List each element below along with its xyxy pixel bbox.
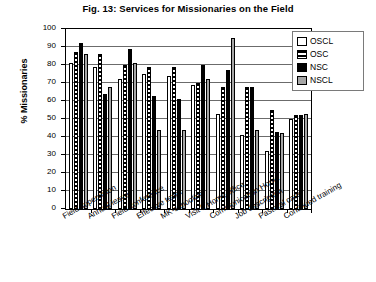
y-tick-label: 10: [26, 186, 56, 194]
bar: [191, 85, 195, 209]
legend-item[interactable]: OSCL: [297, 35, 360, 48]
legend-item[interactable]: NSC: [297, 61, 360, 74]
y-tick-label: 90: [26, 42, 56, 50]
bar: [304, 114, 308, 209]
bar: [206, 79, 210, 209]
bar: [172, 67, 176, 209]
y-tick-label: 50: [26, 114, 56, 122]
y-tick-label: 20: [26, 168, 56, 176]
y-tick-label: 60: [26, 96, 56, 104]
y-tick-label: 0: [26, 204, 56, 212]
bar: [128, 49, 132, 209]
legend-item[interactable]: OSC: [297, 48, 360, 61]
bar: [74, 52, 78, 209]
bar: [79, 43, 83, 209]
bar-group: [91, 29, 116, 209]
bar-group: [213, 29, 238, 209]
legend-swatch-icon: [297, 50, 307, 59]
bar: [69, 63, 73, 209]
bar: [118, 79, 122, 209]
bar-group: [115, 29, 140, 209]
chart-legend: OSCLOSCNSCNSCL: [292, 31, 364, 91]
legend-label: OSC: [310, 50, 328, 59]
legend-swatch-icon: [297, 63, 307, 72]
legend-label: NSCL: [310, 76, 333, 85]
bar-group: [66, 29, 91, 209]
bar: [167, 76, 171, 209]
legend-swatch-icon: [297, 76, 307, 85]
bar: [123, 65, 127, 209]
bar-group: [189, 29, 214, 209]
bar-group: [140, 29, 165, 209]
bar: [147, 67, 151, 209]
y-tick-label: 80: [26, 60, 56, 68]
bar: [84, 54, 88, 209]
bar-group: [164, 29, 189, 209]
bar: [133, 63, 137, 209]
bar: [142, 74, 146, 209]
bar: [98, 54, 102, 209]
y-tick-label: 40: [26, 132, 56, 140]
legend-swatch-icon: [297, 37, 307, 46]
y-tick-label: 100: [26, 24, 56, 32]
legend-label: OSCL: [310, 37, 333, 46]
legend-label: NSC: [310, 63, 328, 72]
legend-item[interactable]: NSCL: [297, 74, 360, 87]
chart-title: Fig. 13: Services for Missionaries on th…: [0, 3, 376, 14]
y-tick-label: 30: [26, 150, 56, 158]
y-tick-label: 70: [26, 78, 56, 86]
x-tick-mark: [311, 209, 312, 213]
bar: [93, 67, 97, 209]
bar: [201, 65, 205, 209]
chart-figure: Fig. 13: Services for Missionaries on th…: [0, 0, 376, 282]
